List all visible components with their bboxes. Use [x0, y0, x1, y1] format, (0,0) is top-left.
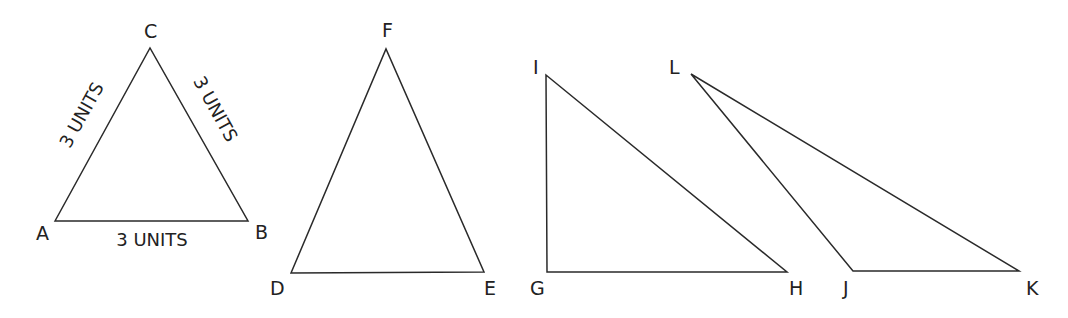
- side-label-cb: 3 UNITS: [189, 72, 242, 145]
- vertex-label-c: C: [144, 20, 157, 42]
- vertex-label-a: A: [36, 222, 49, 244]
- vertex-label-l: L: [669, 56, 680, 78]
- triangle-abc: A B C 3 UNITS 3 UNITS 3 UNITS: [36, 20, 268, 250]
- vertex-label-d: D: [270, 277, 285, 299]
- triangle-ghi: G H I: [530, 56, 803, 299]
- triangle-ghi-outline: [546, 75, 787, 272]
- vertex-label-i: I: [533, 56, 539, 78]
- side-label-ab: 3 UNITS: [116, 229, 188, 250]
- triangle-def-outline: [291, 49, 484, 273]
- triangles-diagram: A B C 3 UNITS 3 UNITS 3 UNITS D E F G H …: [0, 0, 1068, 318]
- vertex-label-b: B: [255, 221, 268, 243]
- vertex-label-f: F: [382, 19, 393, 41]
- triangle-jkl: J K L: [669, 56, 1039, 299]
- vertex-label-k: K: [1026, 277, 1039, 299]
- vertex-label-h: H: [789, 277, 803, 299]
- vertex-label-g: G: [530, 277, 545, 299]
- triangle-jkl-outline: [691, 74, 1019, 271]
- vertex-label-e: E: [484, 277, 496, 299]
- triangle-def: D E F: [270, 19, 496, 299]
- vertex-label-j: J: [842, 277, 849, 299]
